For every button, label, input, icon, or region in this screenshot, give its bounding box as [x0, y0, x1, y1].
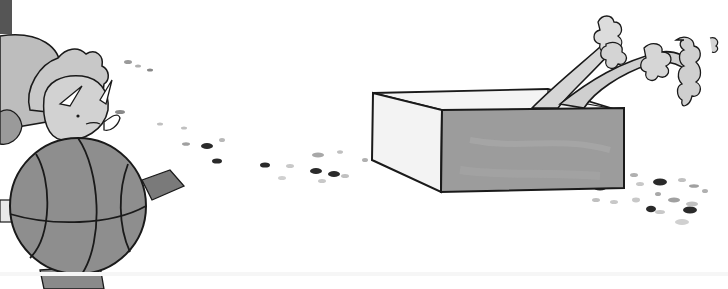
- illustration-canvas: [0, 0, 728, 289]
- floor-shadow: [0, 272, 728, 276]
- illustration-scene: Grayscale illustration: dinosaur creatur…: [0, 0, 728, 289]
